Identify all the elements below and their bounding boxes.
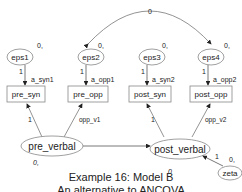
svg-text:1: 1 [215,153,219,160]
svg-text:0,: 0, [98,42,104,49]
zeta-path [203,156,223,166]
svg-text:eps4: eps4 [202,53,220,62]
error-eps1[interactable]: eps1 0, [7,42,43,65]
svg-text:post_verbal: post_verbal [154,144,206,155]
observed-pre_opp[interactable]: pre_opp [68,86,108,102]
svg-text:1: 1 [151,116,155,123]
observed-post_opp[interactable]: post_opp [190,86,232,102]
latent-post_verbal[interactable]: post_verbal 0 [150,139,210,175]
svg-text:0,: 0, [33,159,39,166]
svg-text:1: 1 [28,116,32,123]
svg-text:zeta: zeta [222,169,238,178]
disturbance-zeta[interactable]: zeta 0, [218,156,242,180]
error-eps4[interactable]: eps4 0, [198,42,230,65]
intercept-a_opp1: a_opp1 [91,76,114,84]
svg-text:post_opp: post_opp [195,90,228,99]
error-eps2[interactable]: eps2 0, [78,42,104,65]
covariance-arc [88,11,211,44]
svg-text:eps2: eps2 [82,53,100,62]
intercept-a_syn2: a_syn2 [152,76,175,84]
svg-text:opp_v1: opp_v1 [79,116,101,124]
svg-text:0,: 0, [162,42,168,49]
loading-paths [27,104,210,137]
caption-title: Example 16: Model B [69,171,174,183]
svg-text:opp_v2: opp_v2 [205,116,227,124]
svg-text:post_syn: post_syn [134,90,166,99]
svg-text:1: 1 [80,68,84,75]
intercept-a_syn1: a_syn1 [31,76,54,84]
observed-pre_syn[interactable]: pre_syn [7,86,45,102]
svg-text:eps3: eps3 [143,53,161,62]
svg-text:0,: 0, [37,42,43,49]
svg-text:1: 1 [141,68,145,75]
svg-text:pre_syn: pre_syn [12,90,40,99]
svg-text:pre_verbal: pre_verbal [28,141,75,152]
svg-text:1: 1 [202,68,206,75]
observed-post_syn[interactable]: post_syn [129,86,171,102]
error-eps3[interactable]: eps3 0, [139,42,168,65]
intercept-a_opp2: a_opp2 [213,76,236,84]
path-diagram: 0 eps1 0, eps2 0, eps3 0, eps4 0, 1 1 1 … [0,0,242,192]
caption-subtitle: An alternative to ANCOVA [57,184,185,192]
svg-text:eps1: eps1 [11,53,29,62]
svg-text:0,: 0, [229,156,235,163]
svg-text:0,: 0, [224,42,230,49]
latent-pre_verbal[interactable]: pre_verbal 0, [21,136,83,166]
covariance-label: 0 [148,8,152,15]
svg-text:pre_opp: pre_opp [73,90,103,99]
svg-text:1: 1 [19,68,23,75]
